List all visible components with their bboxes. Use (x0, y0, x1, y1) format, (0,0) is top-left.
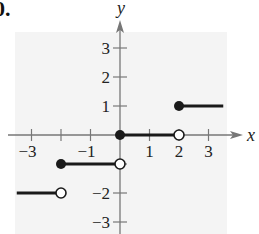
y-tick-label: 3 (102, 39, 111, 58)
x-tick-label: −1 (77, 142, 95, 161)
closed-endpoint-dot (56, 159, 66, 169)
y-tick-label: −3 (92, 213, 110, 232)
open-endpoint-circle (115, 159, 125, 169)
y-tick-label: 1 (102, 97, 111, 116)
y-tick-label: −2 (92, 184, 110, 203)
open-endpoint-circle (56, 188, 66, 198)
x-tick-label: 3 (204, 142, 213, 161)
closed-endpoint-dot (174, 101, 184, 111)
closed-endpoint-dot (115, 130, 125, 140)
y-axis-label: y (115, 0, 125, 18)
x-tick-label: 1 (145, 142, 154, 161)
x-tick-label: 2 (175, 142, 184, 161)
y-tick-label: 2 (102, 68, 111, 87)
open-endpoint-circle (174, 130, 184, 140)
step-function-chart: −3−1123321−2−3xy (0, 0, 259, 234)
x-axis-label: x (246, 125, 255, 145)
x-tick-label: −3 (18, 142, 36, 161)
